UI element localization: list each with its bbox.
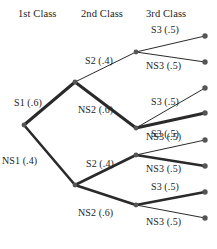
tree-edge — [136, 192, 205, 205]
tree-node — [73, 183, 78, 188]
tree-leaf-node — [202, 137, 207, 142]
column-header: 3rd Class — [146, 8, 186, 19]
tree-leaf-node — [202, 215, 207, 220]
tree-leaf-node — [202, 59, 207, 64]
edge-probability-label: NS1 (.4) — [2, 155, 37, 166]
tree-node — [22, 123, 27, 128]
edge-probability-label: S3 (.5) — [151, 96, 179, 107]
tree-leaf-node — [202, 33, 207, 38]
tree-node — [134, 50, 139, 55]
tree-leaf-node — [202, 85, 207, 90]
tree-edge — [136, 140, 205, 155]
edge-probability-label: S3 (.5) — [151, 128, 179, 139]
edge-probability-label: S1 (.6) — [14, 97, 42, 108]
tree-node — [134, 126, 139, 131]
edge-probability-label: NS2 (.6) — [78, 104, 113, 115]
edge-probability-label: NS3 (.5) — [146, 60, 181, 71]
column-header: 1st Class — [18, 8, 57, 19]
edge-probability-label: S2 (.4) — [85, 55, 113, 66]
tree-node — [134, 153, 139, 158]
edge-probability-label: NS3 (.5) — [146, 163, 181, 174]
tree-leaf-node — [202, 189, 207, 194]
tree-edge — [136, 36, 205, 52]
tree-leaf-node — [202, 110, 207, 115]
tree-edge — [75, 185, 136, 205]
tree-node — [73, 80, 78, 85]
edge-probability-label: S3 (.5) — [151, 181, 179, 192]
edge-probability-label: S3 (.5) — [151, 24, 179, 35]
edge-probability-label: NS3 (.5) — [146, 216, 181, 227]
tree-node — [134, 203, 139, 208]
tree-edge — [136, 113, 205, 128]
column-header: 2nd Class — [81, 8, 123, 19]
tree-leaf-node — [202, 163, 207, 168]
edge-probability-label: NS2 (.6) — [78, 207, 113, 218]
edge-probability-label: S2 (.4) — [86, 158, 114, 169]
probability-tree-diagram: 1st Class2nd Class3rd Class S1 (.6)NS1 (… — [0, 0, 217, 249]
